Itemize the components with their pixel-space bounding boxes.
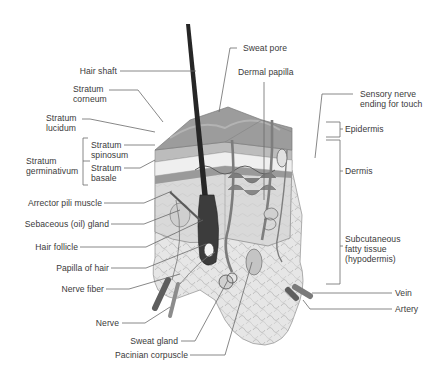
label-stratum-spinosum: Stratum spinosum [91,140,128,160]
leader-nerve [122,307,170,323]
bracket-dermis [326,140,343,284]
label-dermal-papilla: Dermal papilla [238,67,294,77]
leader-sweat-gland [181,280,228,341]
label-dermis: Dermis [345,166,373,176]
label-stratum-germinativum: Stratum germinativum [26,156,78,176]
label-vein: Vein [395,288,412,298]
leader-artery [303,300,392,309]
label-sensory-nerve-ending: Sensory nerve ending for touch [360,89,422,109]
leader-stratum-basale [124,160,155,168]
leader-pacinian-corpuscle [190,262,252,355]
label-sweat-pore: Sweat pore [243,43,287,53]
leader-sebaceous-gland [111,210,180,224]
label-pacinian-corpuscle: Pacinian corpuscle [0,350,188,360]
bracket-epidermis [326,122,343,137]
label-hair-shaft: Hair shaft [52,66,117,76]
label-sebaceous-gland: Sebaceous (oil) gland [0,219,109,229]
leader-stratum-lucidum [82,119,155,132]
leader-papilla-of-hair [111,244,206,268]
label-nerve: Nerve [0,318,119,328]
label-subcutaneous-tissue: Subcutaneous fatty tissue (hypodermis) [345,234,401,264]
label-stratum-corneum: Stratum corneum [73,84,107,104]
label-arrector-pili-muscle: Arrector pili muscle [0,198,102,208]
leader-nerve-fiber [106,274,180,289]
label-epidermis: Epidermis [345,124,384,134]
label-stratum-basale: Stratum basale [91,163,121,183]
label-papilla-of-hair: Papilla of hair [0,263,109,273]
skin-cross-section-diagram: Hair shaft Stratum corneum Stratum lucid… [0,0,446,382]
label-artery: Artery [395,304,418,314]
leader-stratum-corneum [109,90,163,122]
label-nerve-fiber: Nerve fiber [0,284,104,294]
label-hair-follicle: Hair follicle [0,242,78,252]
label-sweat-gland: Sweat gland [0,336,178,346]
leader-sweat-pore [219,48,237,112]
leader-arrector-pili [104,191,172,203]
bracket-stratum-germinativum [83,138,90,185]
label-stratum-lucidum: Stratum lucidum [46,113,76,133]
